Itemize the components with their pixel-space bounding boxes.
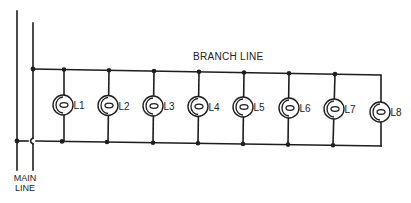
junction-dot-top-main — [31, 67, 36, 72]
lamp-l4: L4 — [188, 70, 220, 146]
lamp-icon — [53, 95, 73, 115]
crossover-hop — [31, 138, 34, 144]
lamp-label: L2 — [119, 101, 131, 112]
lamp-icon — [98, 96, 118, 116]
lamp-l3: L3 — [143, 69, 175, 145]
junction-dot-bottom-main — [15, 139, 20, 144]
branch-line-label: BRANCH LINE — [193, 51, 264, 62]
branch-bottom-wire-main — [36, 141, 381, 146]
lamp-icon — [233, 97, 253, 117]
lamp-label: L5 — [254, 102, 266, 113]
main-line-label-line2: LINE — [15, 183, 35, 193]
parallel-circuit-diagram: BRANCH LINE L1 L2 L3 — [0, 0, 411, 203]
lamp-l6: L6 — [279, 71, 311, 147]
lamp-icon — [324, 99, 344, 119]
lamp-label: L4 — [209, 102, 221, 113]
lamp-icon — [370, 102, 390, 122]
lamp-label: L7 — [345, 104, 357, 115]
lamp-l2: L2 — [98, 68, 130, 144]
lamp-label: L8 — [391, 107, 403, 118]
lamp-icon — [143, 96, 163, 116]
lamp-l7: L7 — [324, 72, 356, 148]
main-line-label-line1: MAIN — [14, 173, 37, 183]
lamp-l5: L5 — [233, 70, 265, 146]
lamp-label: L3 — [164, 101, 176, 112]
lamp-l8: L8 — [370, 102, 402, 122]
main-line — [17, 11, 33, 170]
lamp-icon — [279, 98, 299, 118]
lamp-label: L1 — [74, 100, 86, 111]
lamp-l1: L1 — [53, 67, 85, 144]
lamp-label: L6 — [300, 103, 312, 114]
lamp-icon — [188, 97, 208, 117]
